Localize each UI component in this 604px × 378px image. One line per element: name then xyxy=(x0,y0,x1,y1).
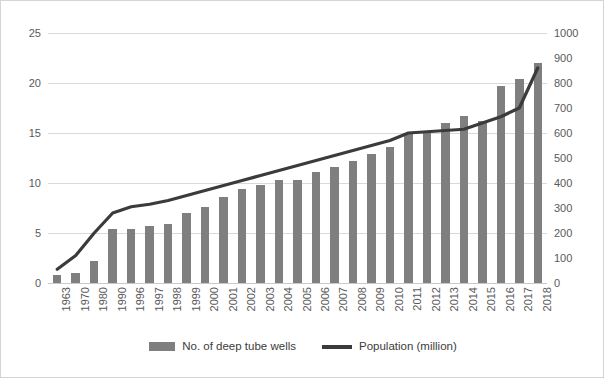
x-axis-tick: 2014 xyxy=(468,287,479,311)
x-axis-tick: 2000 xyxy=(209,287,220,311)
y-axis-right-tick: 1000 xyxy=(554,28,578,39)
y-axis-right-tick: 400 xyxy=(554,178,572,189)
legend-entry-bar[interactable]: No. of deep tube wells xyxy=(149,341,296,353)
x-axis: 1963197019801990199619971998199920002001… xyxy=(48,287,547,335)
x-axis-tick: 2009 xyxy=(375,287,386,311)
y-axis-right-tick: 700 xyxy=(554,103,572,114)
y-axis-right-tick: 300 xyxy=(554,203,572,214)
x-axis-tick: 1990 xyxy=(117,287,128,311)
legend-label-bar: No. of deep tube wells xyxy=(182,341,296,353)
y-axis-right-tick: 800 xyxy=(554,78,572,89)
x-axis-tick: 2018 xyxy=(542,287,553,311)
population-line-path xyxy=(48,33,547,283)
y-axis-left-tick: 5 xyxy=(35,228,41,239)
x-axis-tick: 1996 xyxy=(135,287,146,311)
y-axis-left: 0510152025 xyxy=(9,33,41,283)
x-axis-tick: 2001 xyxy=(228,287,239,311)
x-axis-tick: 2006 xyxy=(320,287,331,311)
x-axis-tick: 2003 xyxy=(265,287,276,311)
y-axis-right-tick: 900 xyxy=(554,53,572,64)
y-axis-left-tick: 25 xyxy=(29,28,41,39)
x-axis-tick: 2017 xyxy=(523,287,534,311)
y-axis-left-tick: 0 xyxy=(35,278,41,289)
legend-entry-line[interactable]: Population (million) xyxy=(322,341,457,353)
y-axis-right-tick: 600 xyxy=(554,128,572,139)
y-axis-right-tick: 200 xyxy=(554,228,572,239)
x-axis-tick: 2004 xyxy=(283,287,294,311)
gridline xyxy=(48,283,547,284)
chart-legend: No. of deep tube wells Population (milli… xyxy=(1,341,604,353)
y-axis-right-tick: 100 xyxy=(554,253,572,264)
x-axis-tick: 2007 xyxy=(338,287,349,311)
x-axis-tick: 2008 xyxy=(357,287,368,311)
y-axis-right-tick: 0 xyxy=(554,278,560,289)
x-axis-tick: 2005 xyxy=(302,287,313,311)
x-axis-tick: 2002 xyxy=(246,287,257,311)
x-axis-tick: 2015 xyxy=(486,287,497,311)
legend-label-line: Population (million) xyxy=(359,341,457,353)
x-axis-tick: 1997 xyxy=(154,287,165,311)
y-axis-left-tick: 15 xyxy=(29,128,41,139)
x-axis-tick: 2010 xyxy=(394,287,405,311)
x-axis-tick: 2011 xyxy=(412,287,423,311)
x-axis-tick: 2013 xyxy=(449,287,460,311)
chart-figure: 0510152025 01002003004005006007008009001… xyxy=(0,0,604,378)
legend-line-swatch-icon xyxy=(322,345,352,349)
y-axis-left-tick: 10 xyxy=(29,178,41,189)
y-axis-right-tick: 500 xyxy=(554,153,572,164)
y-axis-right: 01002003004005006007008009001000 xyxy=(554,33,600,283)
x-axis-tick: 1963 xyxy=(61,287,72,311)
x-axis-tick: 1980 xyxy=(98,287,109,311)
x-axis-tick: 1998 xyxy=(172,287,183,311)
plot-area xyxy=(48,33,547,283)
line-series-population-million xyxy=(48,33,547,283)
x-axis-tick: 1999 xyxy=(191,287,202,311)
x-axis-tick: 2016 xyxy=(505,287,516,311)
x-axis-tick: 2012 xyxy=(431,287,442,311)
x-axis-tick: 1970 xyxy=(80,287,91,311)
legend-bar-swatch-icon xyxy=(149,342,175,351)
y-axis-left-tick: 20 xyxy=(29,78,41,89)
